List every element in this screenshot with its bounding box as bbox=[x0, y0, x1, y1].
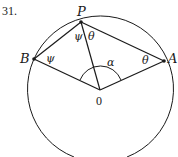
label-B: B bbox=[19, 51, 30, 66]
angle-alpha-at-O: α bbox=[107, 56, 115, 69]
label-A: A bbox=[167, 51, 177, 66]
angle-psi-at-P: ψ bbox=[74, 30, 83, 43]
angle-psi-at-B: ψ bbox=[46, 52, 55, 65]
angle-theta-at-A: θ bbox=[142, 54, 149, 67]
label-O: 0 bbox=[96, 94, 102, 108]
circle-geometry-diagram: 31. P B A 0 ψ θ ψ θ α bbox=[0, 0, 178, 157]
problem-number: 31. bbox=[2, 4, 17, 18]
point-B-dot bbox=[32, 57, 36, 61]
point-A-dot bbox=[162, 59, 166, 63]
alpha-arc bbox=[80, 66, 121, 80]
angle-theta-at-P: θ bbox=[88, 30, 95, 43]
label-P: P bbox=[76, 4, 86, 19]
circle-arc bbox=[27, 16, 173, 157]
point-P-dot bbox=[79, 20, 83, 24]
segment-BO bbox=[34, 59, 100, 90]
